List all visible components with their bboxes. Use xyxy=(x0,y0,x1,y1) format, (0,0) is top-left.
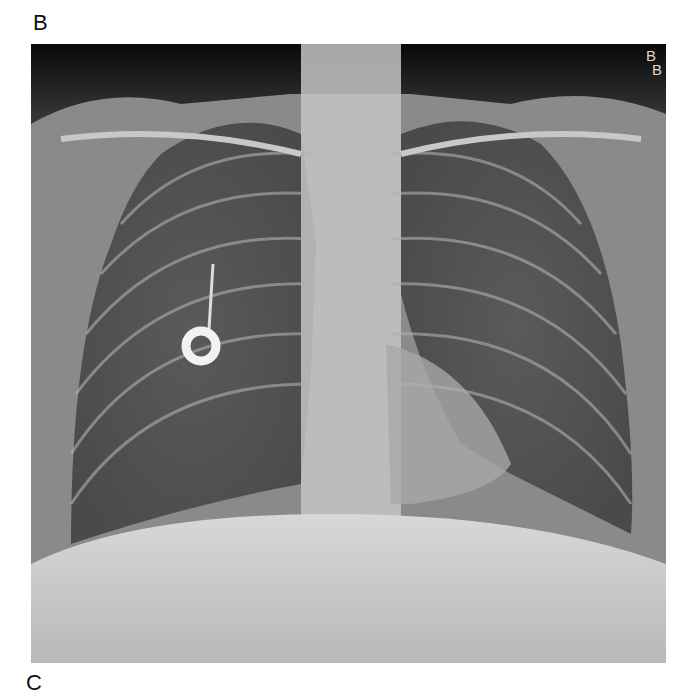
panel-label-b: B xyxy=(33,12,48,34)
xray-drawing xyxy=(31,44,666,663)
chest-xray-image: B B xyxy=(31,44,666,663)
panel-label-c: C xyxy=(26,672,42,694)
side-marker: B xyxy=(652,62,662,77)
